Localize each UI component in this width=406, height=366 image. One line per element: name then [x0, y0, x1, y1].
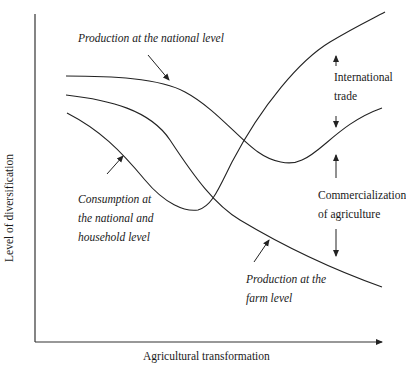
label-trade-line-2: trade — [334, 87, 393, 106]
label-international-trade: International trade — [334, 68, 393, 106]
diagram-canvas: Production at the national level Consump… — [0, 0, 406, 366]
label-trade-line-1: International — [334, 68, 393, 87]
label-consumption-line-2: the national and — [78, 209, 153, 228]
label-commercialization: Commercialization of agriculture — [318, 186, 406, 224]
label-consumption-line-1: Consumption at — [78, 190, 153, 209]
label-farm-line-2: farm level — [246, 289, 326, 308]
label-national-production: Production at the national level — [78, 29, 224, 48]
arrow-consumption — [107, 156, 123, 174]
arrow-farm-production — [254, 240, 269, 262]
label-commercialization-line-2: of agriculture — [318, 205, 406, 224]
label-consumption: Consumption at the national and househol… — [78, 190, 153, 247]
x-axis-label: Agricultural transformation — [143, 350, 270, 362]
label-farm-line-1: Production at the — [246, 270, 326, 289]
label-consumption-line-3: household level — [78, 228, 153, 247]
y-axis-label: Level of diversification — [3, 154, 15, 262]
label-commercialization-line-1: Commercialization — [318, 186, 406, 205]
label-farm-production: Production at the farm level — [246, 270, 326, 308]
diagram-svg — [0, 0, 406, 366]
arrow-national-production — [148, 55, 169, 80]
